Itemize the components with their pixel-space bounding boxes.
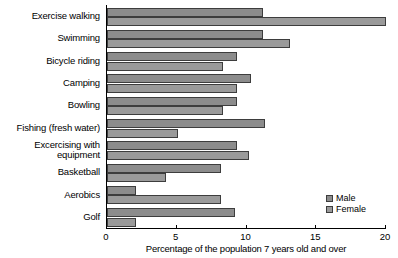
x-tick [385,225,386,229]
bar-male [107,97,237,106]
bar-male [107,30,263,39]
category-label: Swimming [0,27,103,49]
bar-female [107,173,166,182]
bar-group [107,94,386,116]
bar-group [107,139,386,161]
bar-female [107,84,237,93]
bar-female [107,62,223,71]
x-tick [176,225,177,229]
category-label: Bicycle riding [0,50,103,72]
bar-male [107,52,237,61]
x-tick [246,225,247,229]
category-label: Basketball [0,161,103,183]
bar-group [107,27,386,49]
bar-female [107,218,136,227]
x-tick-label: 0 [103,231,108,242]
x-tick-label: 20 [380,231,391,242]
legend-item-male: Male [326,193,366,204]
category-label: Camping [0,72,103,94]
legend-label: Female [336,204,366,215]
category-label: Aerobics [0,183,103,205]
bar-male [107,8,263,17]
x-tick-label: 15 [310,231,321,242]
bar-female [107,106,223,115]
legend-swatch-icon [326,206,333,213]
legend-label: Male [336,193,356,204]
category-label: Golf [0,206,103,228]
bar-male [107,186,136,195]
x-tick-label: 5 [173,231,178,242]
category-label: Exercise walking [0,5,103,27]
x-axis-title: Percentage of the population 7 years old… [106,243,386,254]
bar-group [107,161,386,183]
bar-male [107,74,251,83]
bar-group [107,50,386,72]
chart-legend: MaleFemale [326,193,366,215]
category-label: Excercising with equipment [0,139,103,161]
x-tick [106,225,107,229]
bar-female [107,17,386,26]
bar-female [107,129,178,138]
bar-group [107,117,386,139]
category-label: Bowling [0,94,103,116]
bar-male [107,208,235,217]
bar-group [107,72,386,94]
bar-female [107,151,249,160]
legend-item-female: Female [326,204,366,215]
legend-swatch-icon [326,195,333,202]
category-label: Fishing (fresh water) [0,116,103,138]
category-axis-labels: Exercise walkingSwimmingBicycle ridingCa… [0,5,103,228]
bar-male [107,141,237,150]
bar-group [107,5,386,27]
bar-male [107,119,265,128]
x-tick [315,225,316,229]
bar-chart: Exercise walkingSwimmingBicycle ridingCa… [0,0,398,258]
bar-female [107,39,290,48]
bar-male [107,164,221,173]
bar-female [107,195,221,204]
x-tick-label: 10 [240,231,251,242]
